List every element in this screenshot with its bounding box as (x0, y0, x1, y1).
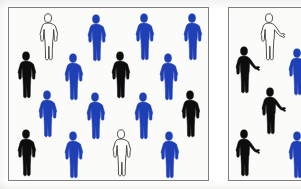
image-canvas (0, 0, 301, 189)
figure-blue-r4-c2 (60, 131, 86, 180)
left-panel (8, 7, 209, 181)
figure-white-r4-c3 (108, 129, 134, 178)
figure-black-r4-c1 (232, 129, 264, 178)
right-panel (228, 7, 301, 181)
figure-black-r4-c1 (13, 129, 39, 178)
figure-blue-r1-c2 (83, 14, 109, 63)
figure-blue-r1-c4 (179, 13, 205, 62)
figure-blue-r1-c3 (131, 13, 157, 62)
figure-blue-r4-c2 (285, 131, 301, 180)
figure-blue-r4-c4 (156, 131, 182, 180)
